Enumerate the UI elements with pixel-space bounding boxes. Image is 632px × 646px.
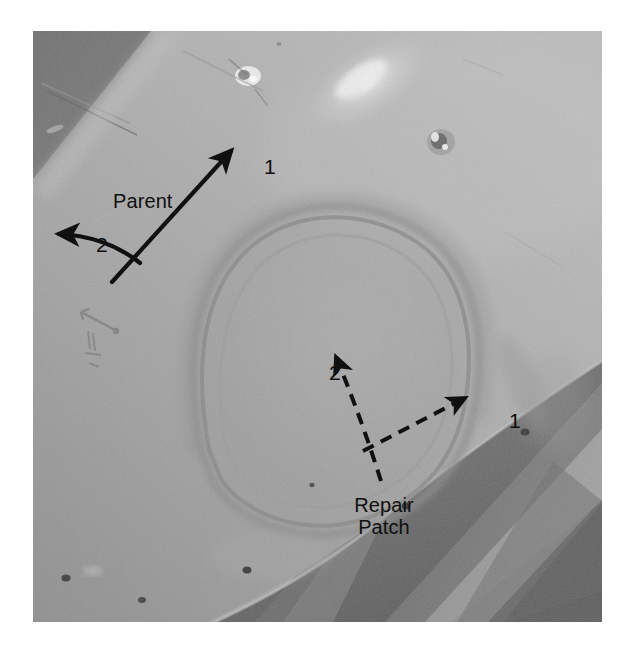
repair-axis-1-label: 1 <box>509 410 521 433</box>
repair-patch-label-line-2: Patch <box>358 516 410 538</box>
parent-axis-1-arrow <box>112 151 231 282</box>
repair-patch-label-line-1: Repair <box>354 494 414 516</box>
repair-axis-2-label: 2 <box>329 362 341 385</box>
repair-axis-1-arrow <box>363 398 465 451</box>
parent-axes-arrows <box>59 151 231 282</box>
parent-axis-2-label: 2 <box>96 234 108 257</box>
figure-root: Parent 1 2 RepairPatch 1 2 <box>0 0 632 646</box>
repair-axes-arrows <box>336 357 465 481</box>
parent-axis-1-label: 1 <box>264 156 276 179</box>
repair-patch-label: RepairPatch <box>336 495 432 538</box>
annotation-overlay <box>33 31 602 622</box>
parent-label: Parent <box>113 191 173 213</box>
panel-photograph: Parent 1 2 RepairPatch 1 2 <box>33 31 602 622</box>
repair-axis-2-arrow <box>336 357 381 481</box>
